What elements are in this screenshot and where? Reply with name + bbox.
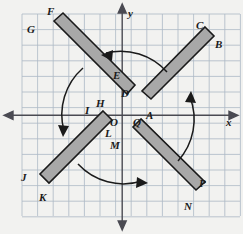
point-label-l: L [105, 128, 112, 139]
point-label-g: G [27, 24, 35, 35]
point-label-a: A [146, 110, 153, 121]
point-label-j: J [21, 172, 27, 183]
point-label-h: H [96, 98, 105, 109]
point-label-k: K [39, 192, 46, 203]
point-label-n: N [184, 201, 192, 212]
coordinate-grid-figure [0, 0, 243, 234]
point-label-e: E [113, 70, 120, 81]
point-label-q: Q [133, 117, 141, 128]
point-label-m: M [110, 140, 120, 151]
x-axis-label: x [226, 117, 232, 128]
y-axis-label: y [128, 8, 133, 19]
point-label-i: I [85, 105, 89, 116]
point-label-c: C [196, 20, 203, 31]
point-label-f: F [47, 6, 54, 17]
point-label-p: P [199, 178, 206, 189]
point-label-d: D [121, 88, 129, 99]
point-label-b: B [215, 39, 222, 50]
